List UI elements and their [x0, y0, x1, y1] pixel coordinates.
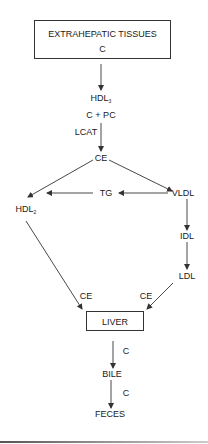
hdl2-node: HDL2: [16, 204, 37, 217]
idl-node: IDL: [180, 231, 194, 241]
feces-node: FECES: [95, 409, 125, 419]
tg-node: TG: [100, 188, 113, 198]
extrahepatic-tissues-box: EXTRAHEPATIC TISSUES C: [34, 20, 171, 59]
hdl3-node: HDL3: [91, 93, 112, 106]
ldl-node: LDL: [179, 271, 196, 281]
extrahepatic-c-label: C: [35, 44, 170, 54]
liver-to-bile-c-label: C: [123, 346, 130, 356]
c-plus-pc-node: C + PC: [86, 110, 115, 120]
extrahepatic-tissues-label: EXTRAHEPATIC TISSUES: [35, 29, 170, 39]
arrow-ce-to-hdl2: [28, 160, 93, 197]
bile-node: BILE: [102, 369, 122, 379]
liver-box: LIVER: [86, 311, 144, 331]
ce-node: CE: [95, 153, 108, 163]
liver-label: LIVER: [87, 317, 143, 327]
lcat-label: LCAT: [75, 127, 97, 137]
hdl2-to-liver-ce-label: CE: [80, 291, 93, 301]
arrow-hdl2-to-liver: [26, 221, 82, 309]
bile-to-feces-c-label: C: [123, 388, 130, 398]
arrow-ce-to-vldl: [109, 160, 172, 191]
vldl-node: VLDL: [172, 188, 195, 198]
ldl-to-liver-ce-label: CE: [140, 291, 153, 301]
bottom-divider: [0, 441, 208, 443]
